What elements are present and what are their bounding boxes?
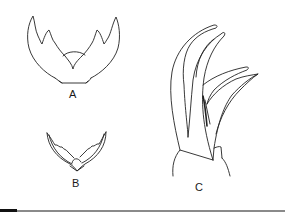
figure: A B C xyxy=(0,0,285,213)
bottom-rule xyxy=(0,210,285,212)
drawing-c xyxy=(171,25,258,176)
bottom-rule-accent xyxy=(0,209,17,212)
panel-label-c: C xyxy=(195,182,203,193)
drawing-b xyxy=(47,132,106,171)
line-drawings xyxy=(0,0,285,213)
drawing-a xyxy=(28,16,120,83)
panel-label-b: B xyxy=(72,178,79,189)
panel-label-a: A xyxy=(69,89,76,100)
